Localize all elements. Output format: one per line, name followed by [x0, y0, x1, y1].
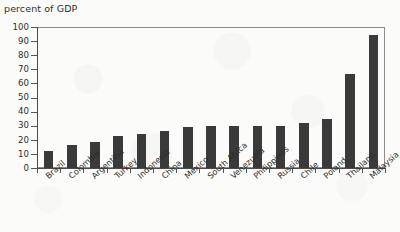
y-axis-tick [31, 154, 37, 155]
y-axis-tick [31, 98, 37, 99]
bar [369, 35, 379, 168]
y-axis-tick [31, 27, 37, 28]
y-axis-tick-label: 0 [3, 164, 29, 173]
y-axis-tick [31, 83, 37, 84]
bar [345, 74, 355, 168]
y-axis-tick [31, 112, 37, 113]
y-axis-tick-label: 20 [3, 136, 29, 145]
y-axis-tick [31, 126, 37, 127]
y-axis-tick-label: 60 [3, 79, 29, 88]
y-axis-tick-label: 70 [3, 65, 29, 74]
x-axis-tick [37, 168, 38, 173]
y-axis-line [37, 27, 38, 168]
y-axis-tick-label: 10 [3, 150, 29, 159]
y-axis-tick-label: 40 [3, 107, 29, 116]
y-axis-tick [31, 55, 37, 56]
y-axis-tick-label: 50 [3, 93, 29, 102]
y-axis-tick-label: 30 [3, 121, 29, 130]
bar [322, 119, 332, 168]
y-axis-tick [31, 140, 37, 141]
y-axis-tick [31, 69, 37, 70]
chart-figure: percent of GDP 0102030405060708090100 Br… [0, 0, 400, 232]
y-axis-tick-label: 80 [3, 51, 29, 60]
y-axis-tick-label: 90 [3, 37, 29, 46]
y-axis-tick-label: 100 [3, 23, 29, 32]
y-axis-labels: 0102030405060708090100 [0, 0, 29, 232]
bar [183, 127, 193, 168]
y-axis-tick [31, 41, 37, 42]
